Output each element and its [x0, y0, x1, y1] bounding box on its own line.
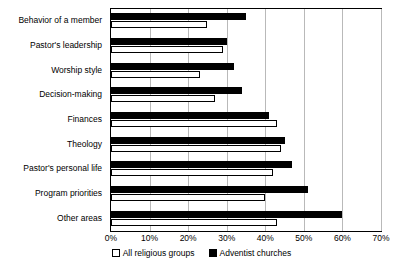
legend-item-adventist: Adventist churches — [209, 248, 292, 258]
legend-label-adventist: Adventist churches — [220, 248, 292, 258]
x-axis-tick-label: 0% — [105, 233, 117, 243]
legend-item-all: All religious groups — [112, 248, 195, 258]
bar-group — [111, 9, 381, 34]
y-axis-tick-label: Theology — [67, 139, 102, 149]
bar-all-religious-groups — [111, 120, 277, 127]
bar-all-religious-groups — [111, 21, 207, 28]
bar-all-religious-groups — [111, 46, 223, 53]
bar-group — [111, 83, 381, 108]
bar-adventist-churches — [111, 137, 285, 144]
y-axis-tick-label: Program priorities — [35, 188, 102, 198]
bar-group — [111, 182, 381, 207]
bar-adventist-churches — [111, 13, 246, 20]
chart-legend: All religious groups Adventist churches — [0, 248, 403, 258]
chart-container: Behavior of a memberPastor's leadershipW… — [0, 0, 403, 274]
legend-label-all: All religious groups — [123, 248, 195, 258]
bar-group — [111, 157, 381, 182]
bar-adventist-churches — [111, 38, 227, 45]
bar-all-religious-groups — [111, 145, 281, 152]
bar-group — [111, 58, 381, 83]
bar-all-religious-groups — [111, 71, 200, 78]
plot-area — [110, 8, 382, 232]
x-axis-tick-label: 20% — [180, 233, 197, 243]
bar-group — [111, 34, 381, 59]
x-axis-tick-label: 70% — [372, 233, 389, 243]
y-axis-tick-label: Worship style — [51, 65, 102, 75]
bar-all-religious-groups — [111, 194, 265, 201]
bar-all-religious-groups — [111, 95, 215, 102]
y-axis-tick-label: Pastor's leadership — [30, 40, 102, 50]
bar-adventist-churches — [111, 63, 234, 70]
y-axis-tick-label: Finances — [68, 114, 103, 124]
x-axis-tick-label: 30% — [218, 233, 235, 243]
bar-all-religious-groups — [111, 219, 277, 226]
y-axis-tick-label: Other areas — [57, 213, 102, 223]
bar-adventist-churches — [111, 112, 269, 119]
x-axis-tick-label: 40% — [257, 233, 274, 243]
bar-group — [111, 206, 381, 231]
bar-group — [111, 132, 381, 157]
y-axis-tick-label: Decision-making — [39, 89, 102, 99]
legend-swatch-adventist — [209, 249, 217, 257]
x-axis-labels: 0%10%20%30%40%50%60%70% — [110, 233, 382, 247]
bar-all-religious-groups — [111, 169, 273, 176]
y-axis-tick-label: Pastor's personal life — [23, 163, 102, 173]
bar-adventist-churches — [111, 87, 242, 94]
x-axis-tick-label: 60% — [334, 233, 351, 243]
x-axis-tick-label: 10% — [141, 233, 158, 243]
bar-adventist-churches — [111, 161, 292, 168]
y-axis-tick-label: Behavior of a member — [18, 15, 102, 25]
bar-adventist-churches — [111, 186, 308, 193]
bar-adventist-churches — [111, 211, 342, 218]
y-axis-labels: Behavior of a memberPastor's leadershipW… — [0, 8, 106, 232]
gridline-70 — [381, 9, 382, 231]
legend-swatch-all — [112, 249, 120, 257]
x-axis-tick-label: 50% — [295, 233, 312, 243]
bar-group — [111, 108, 381, 133]
